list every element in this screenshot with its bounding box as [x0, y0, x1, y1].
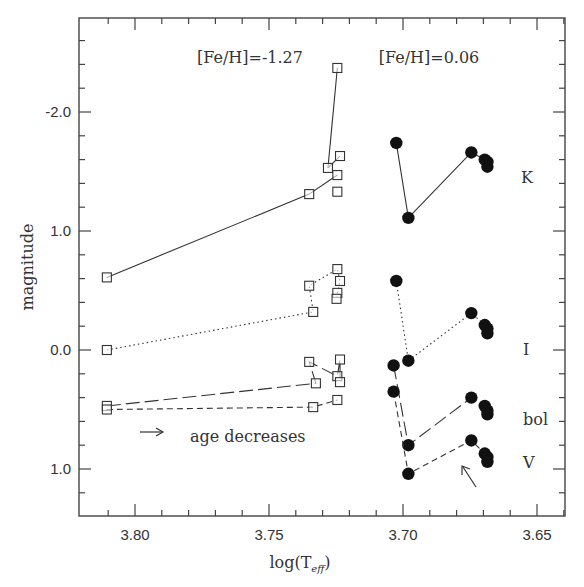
filled-circle-marker — [481, 161, 493, 173]
open-square-marker — [102, 346, 111, 355]
open-square-marker — [305, 357, 314, 366]
y-tick-label: 0.0 — [50, 341, 71, 358]
open-square-marker — [336, 378, 345, 387]
filled-circle-marker — [402, 439, 414, 451]
metal-rich-label: [Fe/H]=0.06 — [379, 48, 480, 67]
open-square-marker — [102, 405, 111, 414]
age-decreases-label: age decreases — [190, 427, 306, 446]
filled-circle-marker — [481, 327, 493, 339]
open-square-marker — [336, 152, 345, 161]
y-tick-label: 1.0 — [50, 460, 71, 477]
open-square-marker — [305, 281, 314, 290]
filled-circle-marker — [465, 434, 477, 446]
filled-circle-marker — [402, 468, 414, 480]
y-tick-label: 1.0 — [50, 222, 71, 239]
open-square-marker — [309, 403, 318, 412]
band-label-bol: bol — [523, 410, 548, 429]
band-label-k: K — [521, 168, 534, 187]
metal-poor-label: [Fe/H]=-1.27 — [197, 48, 303, 67]
open-square-marker — [102, 273, 111, 282]
open-square-marker — [333, 395, 342, 404]
open-square-marker — [333, 63, 342, 72]
open-square-marker — [305, 190, 314, 199]
filled-circle-marker — [465, 391, 477, 403]
series-k-metal-poor — [333, 187, 342, 196]
hr-diagram-chart: 3.803.753.703.65-2.01.00.01.0log(Teff)ma… — [0, 0, 584, 587]
filled-circle-marker — [402, 355, 414, 367]
open-square-marker — [332, 294, 341, 303]
open-square-marker — [336, 276, 345, 285]
filled-circle-marker — [402, 212, 414, 224]
open-square-marker — [311, 379, 320, 388]
filled-circle-marker — [390, 137, 402, 149]
band-label-i: I — [523, 340, 529, 359]
band-label-v: V — [522, 453, 535, 472]
open-square-marker — [333, 171, 342, 180]
y-axis-title: magnitude — [18, 224, 37, 311]
open-square-marker — [323, 163, 332, 172]
filled-circle-marker — [387, 359, 399, 371]
filled-circle-marker — [481, 456, 493, 468]
open-square-marker — [336, 355, 345, 364]
x-tick-label: 3.75 — [254, 526, 283, 543]
y-tick-label: -2.0 — [45, 103, 71, 120]
filled-circle-marker — [465, 146, 477, 158]
x-tick-label: 3.70 — [388, 526, 417, 543]
open-square-marker — [333, 187, 342, 196]
x-tick-label: 3.80 — [120, 526, 149, 543]
open-square-marker — [333, 265, 342, 274]
open-square-marker — [309, 307, 318, 316]
filled-circle-marker — [481, 408, 493, 420]
filled-circle-marker — [465, 307, 477, 319]
filled-circle-marker — [387, 385, 399, 397]
filled-circle-marker — [390, 275, 402, 287]
x-tick-label: 3.65 — [522, 526, 551, 543]
